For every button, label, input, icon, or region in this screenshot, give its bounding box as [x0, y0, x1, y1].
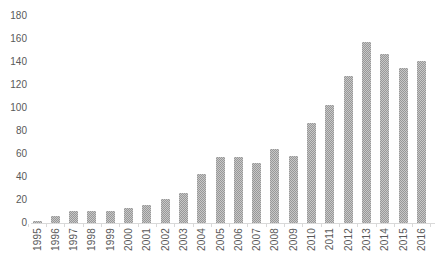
x-axis-tick: [138, 224, 139, 227]
x-tick-label-2004: 2004: [196, 228, 207, 251]
bar-2016: [417, 61, 426, 223]
x-tick-label-2002: 2002: [160, 228, 171, 251]
bar-2006: [234, 157, 243, 223]
y-tick-label-160: 160: [0, 33, 27, 45]
x-axis-tick: [302, 224, 303, 227]
y-tick-label-20: 20: [0, 194, 27, 206]
x-axis-tick: [46, 224, 47, 227]
y-tick-label-40: 40: [0, 171, 27, 183]
x-tick-label-2006: 2006: [233, 228, 244, 251]
x-axis-tick: [83, 224, 84, 227]
x-tick-label-1998: 1998: [86, 228, 97, 251]
bar-1999: [106, 211, 115, 223]
y-tick-label-80: 80: [0, 125, 27, 137]
x-axis-tick: [412, 224, 413, 227]
x-axis-tick: [119, 224, 120, 227]
y-tick-label-100: 100: [0, 102, 27, 114]
bar-2010: [307, 123, 316, 223]
x-axis-tick: [156, 224, 157, 227]
x-axis-tick: [430, 224, 431, 227]
x-tick-label-2001: 2001: [141, 228, 152, 251]
x-tick-label-2010: 2010: [306, 228, 317, 251]
bar-2004: [197, 174, 206, 223]
x-axis-tick: [229, 224, 230, 227]
bar-2008: [270, 149, 279, 223]
y-tick-label-0: 0: [0, 217, 27, 229]
bar-1998: [87, 211, 96, 223]
x-axis-tick: [376, 224, 377, 227]
bar-2009: [289, 156, 298, 223]
y-tick-label-120: 120: [0, 79, 27, 91]
x-axis-tick: [339, 224, 340, 227]
x-axis-tick: [321, 224, 322, 227]
x-tick-label-2007: 2007: [251, 228, 262, 251]
x-tick-label-2013: 2013: [361, 228, 372, 251]
x-tick-label-2015: 2015: [398, 228, 409, 251]
x-axis-tick: [394, 224, 395, 227]
x-axis-tick: [174, 224, 175, 227]
y-tick-label-140: 140: [0, 56, 27, 68]
bar-2003: [179, 193, 188, 223]
bar-2000: [124, 208, 133, 223]
x-axis-tick: [357, 224, 358, 227]
bar-2012: [344, 76, 353, 223]
x-tick-label-2009: 2009: [288, 228, 299, 251]
x-tick-label-1997: 1997: [68, 228, 79, 251]
x-tick-label-2016: 2016: [416, 228, 427, 251]
x-tick-label-2000: 2000: [123, 228, 134, 251]
x-tick-label-2005: 2005: [215, 228, 226, 251]
bar-chart: 020406080100120140160180 199519961997199…: [0, 0, 440, 268]
bar-2013: [362, 42, 371, 223]
bar-2005: [216, 157, 225, 223]
x-tick-label-1999: 1999: [105, 228, 116, 251]
bar-1995: [33, 221, 42, 223]
x-axis-line: [31, 223, 435, 224]
y-tick-label-180: 180: [0, 10, 27, 22]
x-tick-label-2008: 2008: [269, 228, 280, 251]
x-tick-label-2014: 2014: [379, 228, 390, 251]
x-tick-label-1995: 1995: [32, 228, 43, 251]
y-tick-label-60: 60: [0, 148, 27, 160]
x-axis-tick: [193, 224, 194, 227]
x-axis-tick: [284, 224, 285, 227]
bar-1997: [69, 211, 78, 223]
bar-2011: [325, 105, 334, 223]
bar-2007: [252, 163, 261, 223]
bar-2015: [399, 68, 408, 223]
x-axis-tick: [211, 224, 212, 227]
bar-2001: [142, 205, 151, 223]
x-tick-label-2003: 2003: [178, 228, 189, 251]
bar-1996: [51, 216, 60, 223]
x-axis-tick: [266, 224, 267, 227]
x-tick-label-1996: 1996: [50, 228, 61, 251]
x-tick-label-2011: 2011: [324, 228, 335, 250]
bar-2002: [161, 199, 170, 223]
x-axis-tick: [64, 224, 65, 227]
x-tick-label-2012: 2012: [343, 228, 354, 251]
x-axis-tick: [101, 224, 102, 227]
x-axis-tick: [28, 224, 29, 227]
x-axis-tick: [247, 224, 248, 227]
bar-2014: [380, 54, 389, 223]
